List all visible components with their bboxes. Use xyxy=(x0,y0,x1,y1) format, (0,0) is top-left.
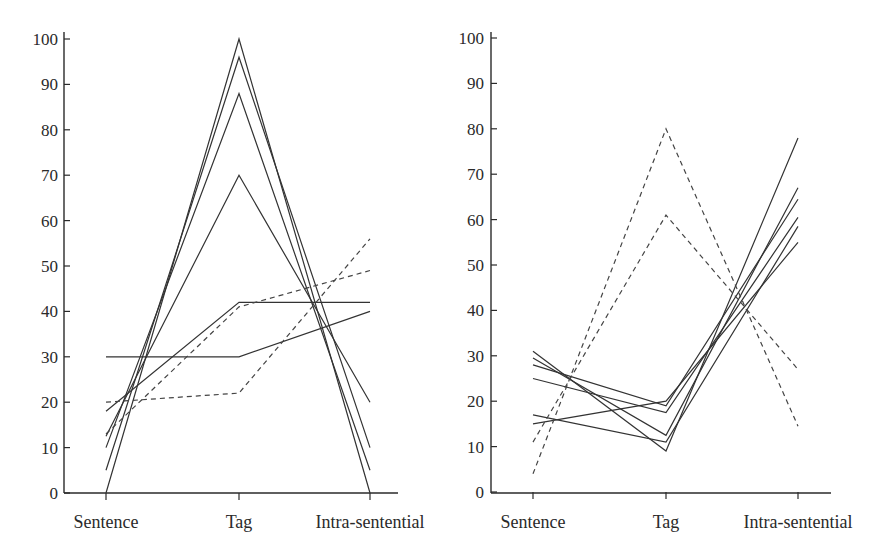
right-series-lines xyxy=(533,129,798,474)
y-tick-label: 100 xyxy=(33,30,59,49)
series-line-subject-8 xyxy=(106,239,370,402)
y-tick-label: 70 xyxy=(467,165,484,184)
series-line-subject-4 xyxy=(533,217,798,412)
left-chart-panel: 0102030405060708090100 SentenceTagIntra-… xyxy=(33,30,425,532)
series-line-subject-1 xyxy=(106,39,370,493)
y-tick-label: 20 xyxy=(467,392,484,411)
series-line-subject-8 xyxy=(533,215,798,442)
series-line-subject-7 xyxy=(533,129,798,474)
series-line-subject-5 xyxy=(533,226,798,442)
y-tick-label: 70 xyxy=(41,166,58,185)
left-series-lines xyxy=(106,39,370,493)
y-tick-label: 40 xyxy=(41,302,58,321)
x-tick-label: Tag xyxy=(653,512,680,532)
y-tick-label: 90 xyxy=(467,74,484,93)
y-tick-label: 0 xyxy=(476,483,485,502)
y-tick-label: 60 xyxy=(41,212,58,231)
y-tick-label: 0 xyxy=(50,484,59,503)
series-line-subject-3 xyxy=(533,199,798,406)
x-tick-label: Intra-sentential xyxy=(316,512,425,532)
series-line-subject-7 xyxy=(106,271,370,435)
y-tick-label: 10 xyxy=(41,439,58,458)
y-tick-label: 30 xyxy=(41,348,58,367)
series-line-subject-4 xyxy=(106,175,370,436)
x-tick-label: Intra-sentential xyxy=(744,512,853,532)
line-chart-figure: 0102030405060708090100 SentenceTagIntra-… xyxy=(0,0,872,552)
right-x-ticks: SentenceTagIntra-sentential xyxy=(501,492,853,532)
y-tick-label: 20 xyxy=(41,393,58,412)
x-tick-label: Sentence xyxy=(74,512,139,532)
y-tick-label: 50 xyxy=(467,256,484,275)
y-tick-label: 80 xyxy=(41,121,58,140)
y-tick-label: 30 xyxy=(467,347,484,366)
y-tick-label: 90 xyxy=(41,75,58,94)
x-tick-label: Sentence xyxy=(501,512,566,532)
y-tick-label: 60 xyxy=(467,211,484,230)
y-tick-label: 100 xyxy=(459,29,485,48)
series-line-subject-2 xyxy=(533,188,798,435)
x-tick-label: Tag xyxy=(226,512,253,532)
series-line-subject-1 xyxy=(533,138,798,451)
y-tick-label: 40 xyxy=(467,301,484,320)
left-x-ticks: SentenceTagIntra-sentential xyxy=(74,493,425,532)
y-tick-label: 10 xyxy=(467,438,484,457)
y-tick-label: 80 xyxy=(467,120,484,139)
y-tick-label: 50 xyxy=(41,257,58,276)
series-line-subject-6 xyxy=(533,242,798,424)
series-line-subject-2 xyxy=(106,57,370,470)
series-line-subject-3 xyxy=(106,94,370,471)
right-chart-panel: 0102030405060708090100 SentenceTagIntra-… xyxy=(459,29,853,532)
